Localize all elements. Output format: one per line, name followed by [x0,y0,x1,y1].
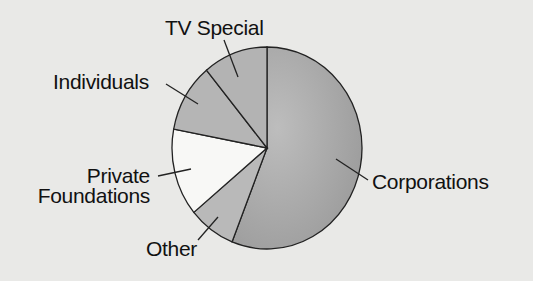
label-other: Other [146,237,197,260]
pie-chart: TV Special Individuals Private Foundatio… [0,0,533,281]
pie-slices [172,47,362,249]
label-individuals: Individuals [53,70,149,93]
label-tv-special: TV Special [165,16,264,39]
label-private-foundations-line2: Foundations [38,184,150,207]
label-corporations: Corporations [372,170,489,193]
